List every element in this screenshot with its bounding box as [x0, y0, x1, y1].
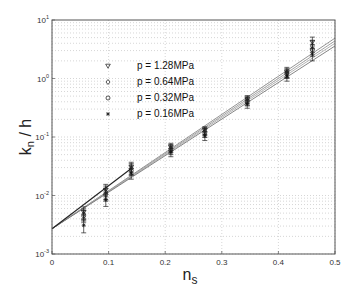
- legend: p = 1.28MPap = 0.64MPap = 0.32MPap = 0.1…: [106, 60, 195, 119]
- triangle-marker-icon: [106, 64, 111, 68]
- x-tick-label: 0.1: [103, 258, 115, 267]
- x-tick-label: 0.4: [273, 258, 285, 267]
- x-axis-ticks: 00.10.20.30.40.5: [50, 251, 341, 267]
- star-marker-icon: [106, 112, 110, 116]
- legend-label: p = 1.28MPa: [137, 60, 194, 71]
- star-marker-icon: [245, 102, 249, 106]
- x-tick-label: 0.2: [160, 258, 172, 267]
- circle-marker-icon: [106, 96, 110, 100]
- star-marker-icon: [203, 134, 207, 138]
- star-marker-icon: [129, 171, 133, 175]
- legend-item: p = 1.28MPa: [106, 60, 195, 71]
- y-tick-label: 101: [37, 14, 49, 25]
- legend-label: p = 0.16MPa: [137, 108, 194, 119]
- y-axis-label: kn / h: [17, 119, 36, 155]
- diamond-marker-icon: [106, 80, 110, 85]
- legend-item: p = 0.64MPa: [106, 76, 194, 87]
- legend-label: p = 0.64MPa: [137, 76, 194, 87]
- y-tick-label: 10-3: [35, 248, 49, 259]
- legend-item: p = 0.32MPa: [106, 92, 194, 103]
- legend-item: p = 0.16MPa: [106, 108, 194, 119]
- chart: 00.10.20.30.40.5 10110010-110-210-3 p = …: [0, 0, 356, 288]
- series-3: [81, 49, 315, 233]
- y-tick-label: 10-2: [35, 190, 49, 201]
- star-marker-icon: [310, 52, 314, 56]
- x-tick-label: 0: [50, 258, 55, 267]
- star-marker-icon: [82, 223, 86, 227]
- x-tick-label: 0.5: [329, 258, 341, 267]
- series-0: [81, 37, 315, 219]
- legend-label: p = 0.32MPa: [137, 92, 194, 103]
- x-tick-label: 0.3: [216, 258, 228, 267]
- fit-line-main: [52, 168, 131, 228]
- star-marker-icon: [104, 198, 108, 202]
- x-axis-label: ns: [183, 266, 198, 287]
- star-marker-icon: [285, 74, 289, 78]
- data-points: [81, 37, 315, 233]
- y-tick-label: 10-1: [35, 131, 49, 142]
- star-marker-icon: [169, 150, 173, 154]
- y-tick-label: 100: [37, 73, 49, 84]
